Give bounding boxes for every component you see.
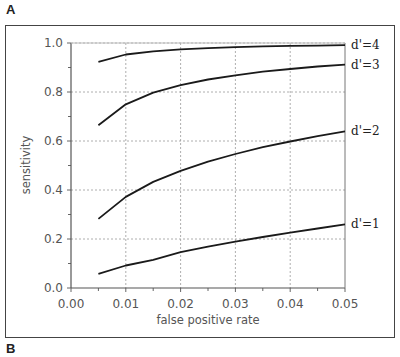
x-tick-label: 0.00 xyxy=(58,297,85,311)
line-chart: 0.000.010.020.030.040.050.00.20.40.60.81… xyxy=(0,0,400,357)
y-tick-label: 0.8 xyxy=(44,85,63,99)
curve-d2 xyxy=(98,131,345,219)
y-axis-title: sensitivity xyxy=(19,136,33,195)
curve-d4 xyxy=(98,45,345,62)
x-tick-label: 0.01 xyxy=(112,297,139,311)
x-axis-title: false positive rate xyxy=(156,313,259,327)
y-tick-label: 0.6 xyxy=(44,134,63,148)
curve-label: d'=2 xyxy=(351,124,380,138)
curve-label: d'=3 xyxy=(351,58,380,72)
y-tick-label: 0.0 xyxy=(44,281,63,295)
x-tick-label: 0.03 xyxy=(222,297,249,311)
curve-d1 xyxy=(98,224,345,273)
x-tick-label: 0.04 xyxy=(277,297,304,311)
panel-label-b: B xyxy=(6,341,15,356)
curves xyxy=(98,45,345,274)
curve-d3 xyxy=(98,65,345,126)
curve-label: d'=1 xyxy=(351,217,380,231)
x-tick-label: 0.02 xyxy=(167,297,194,311)
y-tick-label: 0.4 xyxy=(44,183,63,197)
y-tick-label: 1.0 xyxy=(44,36,63,50)
labels: 0.000.010.020.030.040.050.00.20.40.60.81… xyxy=(44,36,380,311)
x-tick-label: 0.05 xyxy=(332,297,359,311)
curve-label: d'=4 xyxy=(351,38,380,52)
y-tick-label: 0.2 xyxy=(44,232,63,246)
